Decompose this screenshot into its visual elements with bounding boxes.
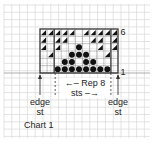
dot-icon xyxy=(76,52,82,58)
triangle-icon xyxy=(55,45,60,50)
dot-icon xyxy=(83,59,89,65)
repeat-label: ←– Rep 8 sts –→ xyxy=(60,78,110,98)
arrow-up-icon xyxy=(38,74,42,79)
triangle-icon xyxy=(48,30,53,35)
dot-icon xyxy=(69,52,75,58)
triangle-icon xyxy=(98,45,103,50)
triangle-icon xyxy=(105,52,110,57)
triangle-icon xyxy=(112,37,117,42)
dot-icon xyxy=(90,66,96,72)
edge-st-left-label: edge st xyxy=(27,97,53,117)
triangle-icon xyxy=(98,30,103,35)
triangle-icon xyxy=(69,30,74,35)
arrow-right-icon: –→ xyxy=(85,88,99,98)
dot-icon xyxy=(69,66,75,72)
triangle-icon xyxy=(105,30,110,35)
triangle-icon xyxy=(91,30,96,35)
triangle-icon xyxy=(41,30,46,35)
dot-icon xyxy=(76,44,82,50)
dot-icon xyxy=(55,66,61,72)
dot-icon xyxy=(62,59,68,65)
triangle-icon xyxy=(41,37,46,42)
triangle-icon xyxy=(98,37,103,42)
triangle-icon xyxy=(112,30,117,35)
dot-icon xyxy=(83,52,89,58)
arrow-left-icon: ←– xyxy=(65,78,79,88)
triangle-icon xyxy=(84,30,89,35)
triangle-icon xyxy=(112,45,117,50)
dot-icon xyxy=(83,66,89,72)
dot-icon xyxy=(76,66,82,72)
dot-icon xyxy=(104,66,110,72)
triangle-icon xyxy=(55,37,60,42)
triangle-icon xyxy=(62,30,67,35)
triangle-icon xyxy=(48,52,53,57)
edge-st-right-label: edge st xyxy=(105,97,131,117)
triangle-icon xyxy=(62,37,67,42)
dot-icon xyxy=(90,59,96,65)
dot-icon xyxy=(69,59,75,65)
chart-title: Chart 1 xyxy=(24,120,64,130)
row-label-bottom: 1 xyxy=(119,67,127,77)
row-label-top: 6 xyxy=(119,27,127,37)
triangle-icon xyxy=(41,45,46,50)
triangle-icon xyxy=(55,30,60,35)
dot-icon xyxy=(62,66,68,72)
triangle-icon xyxy=(91,37,96,42)
dot-icon xyxy=(97,66,103,72)
